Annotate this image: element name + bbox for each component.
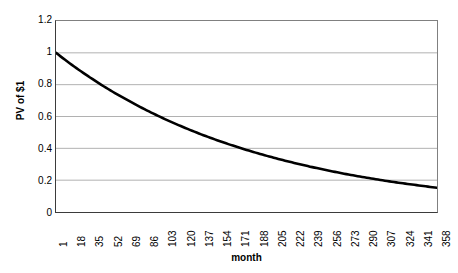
x-tick-label: 290	[369, 213, 379, 247]
pv-of-dollar-chart: PV of $1 1.210.80.60.40.20 1183552698610…	[0, 0, 458, 273]
x-tick-label: 273	[351, 213, 361, 247]
x-tick-label: 256	[333, 213, 343, 247]
x-tick-label: 324	[406, 213, 416, 247]
x-axis-tick-labels: 1183552698610312013715417118820522223925…	[55, 215, 438, 251]
y-tick-label: 1	[26, 47, 52, 57]
x-tick-label: 103	[168, 213, 178, 247]
x-tick-label: 120	[187, 213, 197, 247]
x-tick-label: 171	[241, 213, 251, 247]
x-tick-label: 52	[114, 213, 124, 247]
x-tick-label: 69	[132, 213, 142, 247]
y-axis-tick-labels: 1.210.80.60.40.20	[22, 0, 52, 273]
y-tick-label: 0.6	[26, 112, 52, 122]
x-tick-label: 35	[95, 213, 105, 247]
y-tick-label: 1.2	[26, 15, 52, 25]
x-tick-label: 239	[314, 213, 324, 247]
x-tick-label: 222	[296, 213, 306, 247]
x-tick-label: 358	[442, 213, 452, 247]
x-tick-label: 307	[387, 213, 397, 247]
x-tick-label: 188	[260, 213, 270, 247]
pv-decay-curve	[56, 53, 437, 188]
plot-svg	[56, 21, 437, 212]
x-tick-label: 86	[150, 213, 160, 247]
y-tick-label: 0.4	[26, 144, 52, 154]
y-tick-label: 0.8	[26, 79, 52, 89]
y-tick-label: 0.2	[26, 176, 52, 186]
x-axis-title: month	[55, 252, 438, 263]
x-tick-label: 137	[205, 213, 215, 247]
x-tick-label: 154	[223, 213, 233, 247]
gridlines	[56, 53, 437, 180]
x-tick-label: 18	[77, 213, 87, 247]
x-tick-label: 341	[424, 213, 434, 247]
x-tick-label: 1	[59, 213, 69, 247]
x-tick-label: 205	[278, 213, 288, 247]
y-tick-label: 0	[26, 208, 52, 218]
plot-area	[55, 20, 438, 213]
